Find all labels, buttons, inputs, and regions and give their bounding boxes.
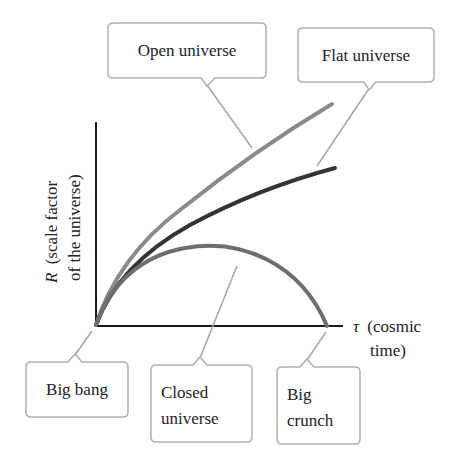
svg-text:τ (cosmic: τ (cosmic xyxy=(353,317,422,336)
y-axis-label-line1: (scale factor xyxy=(42,180,61,264)
bigbang-leader-line xyxy=(75,331,92,355)
closed-leader-line xyxy=(200,266,237,358)
open-leader-line xyxy=(207,85,252,148)
callout-big-bang: Big bang xyxy=(26,354,128,417)
crunch-leader-line xyxy=(307,332,326,360)
cosmology-diagram: Open universe Flat universe Big bang Clo… xyxy=(0,0,461,476)
big-crunch-label-line1: Big xyxy=(287,385,312,404)
closed-universe-label-line2: universe xyxy=(161,409,219,428)
callout-flat-universe: Flat universe xyxy=(298,28,434,90)
y-axis-label-line2: of the universe) xyxy=(65,174,84,281)
big-crunch-label-line2: crunch xyxy=(287,411,334,430)
x-axis-label-line1: (cosmic xyxy=(367,317,421,336)
closed-universe-label-line1: Closed xyxy=(161,383,209,402)
big-bang-label: Big bang xyxy=(46,380,108,399)
x-axis-label: τ (cosmic time) xyxy=(353,317,422,360)
svg-text:R (scale factor: R (scale factor xyxy=(42,180,61,284)
flat-universe-label: Flat universe xyxy=(322,46,410,65)
x-axis-label-line2: time) xyxy=(370,341,406,360)
x-axis-symbol: τ xyxy=(353,317,360,336)
y-axis-symbol: R xyxy=(42,272,61,284)
y-axis-label: R (scale factor of the universe) xyxy=(42,174,84,284)
callout-closed-universe: Closed universe xyxy=(151,357,252,442)
callout-big-crunch: Big crunch xyxy=(277,359,360,444)
flat-leader-line xyxy=(317,90,368,166)
callout-open-universe: Open universe xyxy=(108,23,266,86)
open-universe-label: Open universe xyxy=(138,41,237,60)
